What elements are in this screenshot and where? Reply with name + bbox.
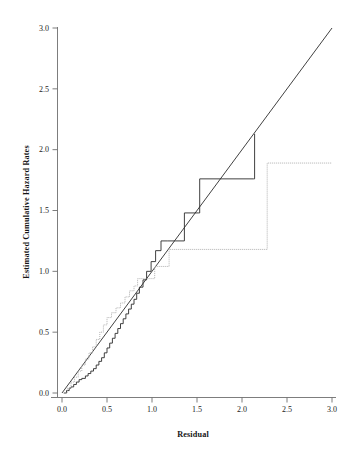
x-axis-ticks: 0.00.51.01.52.02.53.0 — [57, 398, 337, 415]
y-axis-title: Estimated Cumulative Hazard Rates — [22, 145, 31, 278]
x-tick-label: 1.5 — [192, 405, 202, 414]
x-tick-label: 1.0 — [147, 405, 157, 414]
y-tick-label: 0.0 — [39, 389, 49, 398]
series-black-step-curve — [64, 134, 255, 393]
x-tick-label: 2.5 — [282, 405, 292, 414]
y-tick-label: 1.5 — [39, 206, 49, 215]
y-tick-label: 2.0 — [39, 145, 49, 154]
x-tick-label: 2.0 — [237, 405, 247, 414]
chart-plot-area: 0.00.51.01.52.02.53.0 0.00.51.01.52.02.5… — [0, 0, 349, 454]
series-reference-line — [62, 28, 332, 393]
y-tick-label: 0.5 — [39, 328, 49, 337]
y-tick-label: 3.0 — [39, 24, 49, 33]
x-tick-label: 3.0 — [327, 405, 337, 414]
chart-series-group — [62, 28, 332, 393]
y-tick-label: 1.0 — [39, 267, 49, 276]
y-tick-label: 2.5 — [39, 85, 49, 94]
x-tick-label: 0.0 — [57, 405, 67, 414]
series-gray-dotted-step-curve — [64, 163, 332, 393]
x-axis-title: Residual — [177, 430, 209, 439]
y-axis-ticks: 0.00.51.01.52.02.53.0 — [39, 24, 58, 398]
x-tick-label: 0.5 — [102, 405, 112, 414]
chart-figure: 0.00.51.01.52.02.53.0 0.00.51.01.52.02.5… — [0, 0, 349, 454]
